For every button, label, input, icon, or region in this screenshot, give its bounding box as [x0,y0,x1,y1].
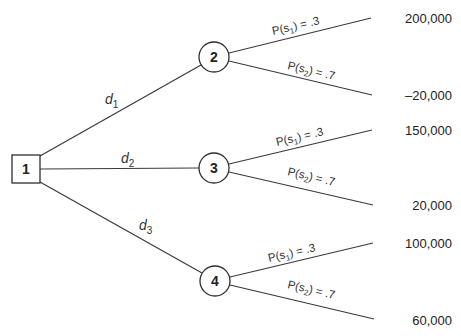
payoff-5: 100,000 [405,236,452,251]
payoff-2: –20,000 [405,88,452,103]
decision-label-d2: d2 [121,150,135,169]
decision-node-1: 1 [12,155,40,183]
edge-d2 [40,168,199,169]
payoff-4: 20,000 [412,198,452,213]
chance-node-3: 3 [199,153,229,183]
payoff-1: 200,000 [405,11,452,26]
payoff-3: 150,000 [405,123,452,138]
node-3-label: 3 [210,160,218,176]
decision-label-d1: d1 [105,91,119,110]
chance-node-2: 2 [199,42,229,72]
node-1-label: 1 [22,161,30,177]
edge-d1 [40,65,201,156]
chance-node-4: 4 [200,266,230,296]
node-2-label: 2 [210,49,218,65]
edge-d3 [40,182,202,273]
prob-label-node4-s1: P(s1) = .3 [267,241,317,266]
decision-tree-diagram: 1 2 3 4 d1 d2 d3 P(s1) = .3 P(s2) = .7 P… [0,0,461,336]
payoff-6: 60,000 [412,313,452,328]
node-4-label: 4 [211,273,219,289]
decision-label-d3: d3 [139,217,153,236]
